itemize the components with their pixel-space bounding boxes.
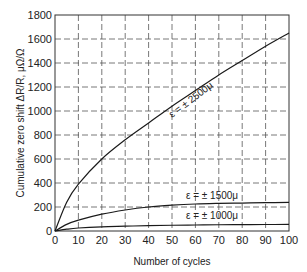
x-tick-label: 80 [236, 234, 248, 246]
x-tick-label: 30 [119, 234, 131, 246]
x-axis-ticks: 0102030405060708090100 [52, 234, 298, 246]
x-tick-label: 10 [72, 234, 84, 246]
y-tick-label: 1200 [28, 81, 52, 93]
y-tick-label: 1400 [28, 57, 52, 69]
curve-label-1000: ε = ± 1000μ [186, 210, 238, 221]
y-axis-label: Cumulative zero shift ΔR/R, μΩ/Ω [15, 48, 26, 198]
x-tick-label: 70 [213, 234, 225, 246]
y-tick-label: 200 [34, 201, 52, 213]
y-tick-label: 600 [34, 153, 52, 165]
y-tick-label: 800 [34, 129, 52, 141]
x-tick-label: 100 [280, 234, 298, 246]
x-tick-label: 60 [189, 234, 201, 246]
y-tick-label: 400 [34, 177, 52, 189]
y-tick-label: 1000 [28, 105, 52, 117]
curve-label-1500: ε = ± 1500μ [186, 190, 238, 201]
curve-label-2500: ε = ± 2500μ [167, 79, 215, 119]
y-axis-ticks: 020040060080010001200140016001800 [28, 9, 52, 237]
x-tick-label: 90 [259, 234, 271, 246]
x-tick-label: 50 [166, 234, 178, 246]
grid-lines [55, 15, 289, 231]
x-tick-label: 0 [52, 234, 58, 246]
x-tick-label: 40 [142, 234, 154, 246]
zero-shift-chart: 020040060080010001200140016001800 010203… [0, 0, 307, 272]
y-tick-label: 1600 [28, 33, 52, 45]
chart-svg: 020040060080010001200140016001800 010203… [0, 0, 307, 272]
x-axis-label: Number of cycles [133, 256, 210, 267]
x-tick-label: 20 [96, 234, 108, 246]
y-tick-label: 1800 [28, 9, 52, 21]
